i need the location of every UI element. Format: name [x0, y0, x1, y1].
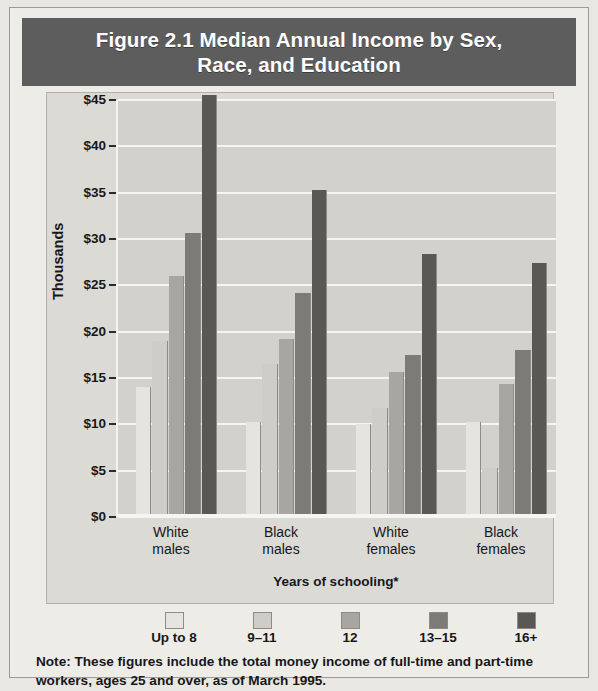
- legend-label: 16+: [482, 630, 570, 645]
- y-axis-tick-label: $45: [62, 92, 106, 107]
- x-axis-group-label: Black females: [446, 524, 556, 558]
- y-axis-tick-label: $0: [62, 509, 106, 524]
- y-axis-tick-label: $25: [62, 277, 106, 292]
- bar-group: [466, 100, 549, 517]
- bar: [389, 372, 405, 517]
- bar: [202, 95, 218, 517]
- legend-item: 16+: [482, 612, 570, 645]
- bar: [466, 422, 482, 517]
- bar: [499, 384, 515, 517]
- x-axis-group-label: White females: [336, 524, 446, 558]
- legend-label: 9–11: [218, 630, 306, 645]
- bar: [482, 468, 498, 517]
- y-axis-tick: [109, 470, 116, 472]
- figure-note: Note: These figures include the total mo…: [36, 652, 584, 691]
- bar: [356, 424, 372, 517]
- y-axis-tick-label: $40: [62, 138, 106, 153]
- bar: [515, 350, 531, 517]
- y-axis-tick: [109, 377, 116, 379]
- legend-swatch: [517, 612, 536, 629]
- bar: [169, 276, 185, 517]
- legend-swatch: [253, 612, 272, 629]
- y-axis-tick: [109, 516, 116, 518]
- y-axis-tick: [109, 238, 116, 240]
- bar: [532, 263, 548, 517]
- figure-title: Figure 2.1 Median Annual Income by Sex, …: [96, 27, 502, 77]
- bar: [152, 341, 168, 517]
- legend-swatch: [429, 612, 448, 629]
- bar: [136, 387, 152, 517]
- legend-label: Up to 8: [130, 630, 218, 645]
- bar: [246, 422, 262, 517]
- y-axis-tick-label: $30: [62, 231, 106, 246]
- bar: [295, 293, 311, 517]
- plot-area: [116, 100, 556, 517]
- bar: [312, 190, 328, 517]
- bar: [185, 233, 201, 517]
- figure-title-banner: Figure 2.1 Median Annual Income by Sex, …: [22, 18, 576, 86]
- y-axis-tick: [109, 99, 116, 101]
- x-axis-group-label: White males: [116, 524, 226, 558]
- bar: [405, 355, 421, 517]
- bar: [262, 364, 278, 517]
- legend-item: 12: [306, 612, 394, 645]
- y-axis-tick-label: $10: [62, 416, 106, 431]
- legend-label: 12: [306, 630, 394, 645]
- legend-swatch: [165, 612, 184, 629]
- bar: [422, 254, 438, 517]
- y-axis-tick-label: $35: [62, 185, 106, 200]
- bar-group: [136, 100, 219, 517]
- bar-group: [356, 100, 439, 517]
- y-axis-tick: [109, 145, 116, 147]
- x-axis-title: Years of schooling*: [116, 574, 556, 589]
- y-axis-tick-label: $15: [62, 370, 106, 385]
- legend-item: 13–15: [394, 612, 482, 645]
- y-axis-tick: [109, 423, 116, 425]
- chart-legend: Up to 89–111213–1516+: [130, 612, 570, 646]
- legend-swatch: [341, 612, 360, 629]
- legend-item: Up to 8: [130, 612, 218, 645]
- legend-item: 9–11: [218, 612, 306, 645]
- y-axis-tick: [109, 331, 116, 333]
- x-axis-group-label: Black males: [226, 524, 336, 558]
- bar: [372, 408, 388, 517]
- bar-group: [246, 100, 329, 517]
- y-axis-tick-label: $5: [62, 463, 106, 478]
- axis-baseline: [118, 514, 556, 517]
- legend-label: 13–15: [394, 630, 482, 645]
- bar: [279, 339, 295, 517]
- figure-container: Figure 2.1 Median Annual Income by Sex, …: [9, 7, 589, 678]
- y-axis-tick-label: $20: [62, 324, 106, 339]
- y-axis-tick: [109, 192, 116, 194]
- y-axis-tick: [109, 284, 116, 286]
